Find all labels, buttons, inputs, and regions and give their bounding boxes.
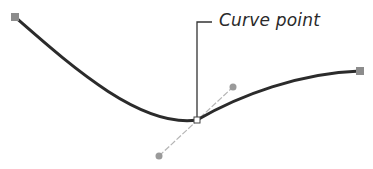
direction-handle-in[interactable] [156,153,163,160]
end-anchor-point[interactable] [356,67,364,75]
callout-leader-line [197,22,212,118]
direction-handle-out[interactable] [230,84,237,91]
callout-label: Curve point [219,10,320,30]
bezier-curve [15,17,360,121]
start-anchor-point[interactable] [11,13,19,21]
curve-point-marker[interactable] [194,117,200,123]
